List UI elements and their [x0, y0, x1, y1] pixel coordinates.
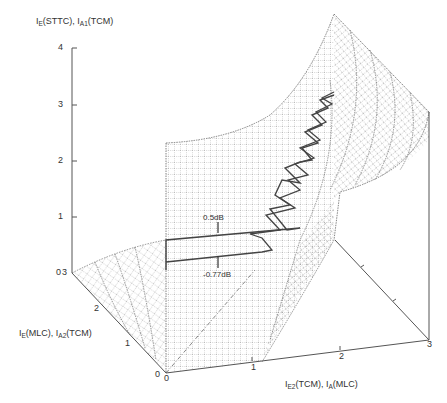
z-tick-0: 0 — [56, 268, 61, 277]
chart-canvas — [0, 0, 447, 403]
z-tick-1: 1 — [58, 212, 63, 221]
y-axis-label: IE(MLC), IA2(TCM) — [19, 329, 92, 340]
x-tick-2: 2 — [339, 352, 344, 361]
z-tick-2: 2 — [58, 156, 63, 165]
annotation-0.5dB: 0.5dB — [203, 214, 224, 222]
surface-mesh-back — [166, 14, 334, 373]
x-axis-label: IE2(TCM), IA(MLC) — [285, 380, 358, 391]
x-tick-3: 3 — [427, 340, 432, 349]
z-tick-4: 4 — [58, 43, 63, 52]
y-tick-1: 1 — [125, 339, 130, 348]
x-tick-1: 1 — [251, 363, 256, 372]
surface-mesh-left — [72, 240, 166, 373]
y-tick-2: 2 — [94, 304, 99, 313]
z-tick-3: 3 — [58, 100, 63, 109]
x-tick-0: 0 — [164, 374, 169, 383]
y-tick-3: 3 — [62, 268, 67, 277]
annotation-minus-0.77dB: -0.77dB — [203, 271, 231, 279]
y-tick-0: 0 — [155, 370, 160, 379]
z-axis-label: IE(STTC), IA1(TCM) — [36, 17, 113, 28]
